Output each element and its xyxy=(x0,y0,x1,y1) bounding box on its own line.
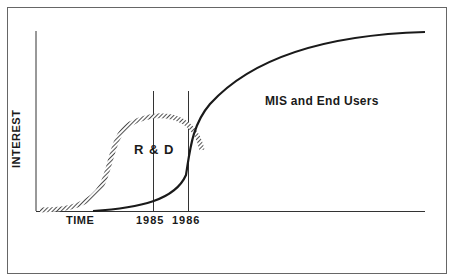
rd-annotation: R & D xyxy=(134,142,174,157)
tick-label-1985: 1985 xyxy=(136,214,164,226)
mis-curve xyxy=(93,32,425,211)
y-axis-label: INTEREST xyxy=(10,110,22,168)
rd-curve xyxy=(40,116,202,210)
tick-label-1986: 1986 xyxy=(172,214,200,226)
diagram-canvas xyxy=(0,0,454,278)
x-axis-label: TIME xyxy=(66,214,94,226)
frame-border xyxy=(8,8,447,274)
mis-annotation: MIS and End Users xyxy=(265,94,379,108)
